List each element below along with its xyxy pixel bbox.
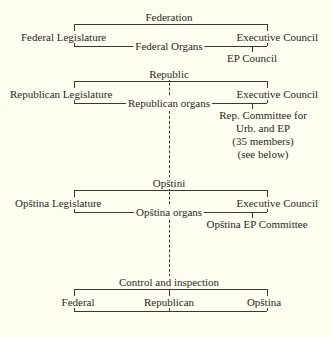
opstina-organs-label: Opština organs <box>134 206 204 218</box>
rep-committee-line-2: Urb. and EP <box>201 122 325 135</box>
org-hierarchy-diagram: Federation Federal Legislature Executive… <box>0 0 332 337</box>
spine-dash-republic-to-opstini <box>169 106 170 178</box>
federation-top-bracket-left-tick <box>74 24 75 31</box>
rep-committee-line-1: Rep. Committee for <box>201 109 325 122</box>
ep-council-label: EP Council <box>225 52 279 64</box>
opstini-top-bracket-left-tick <box>74 190 75 197</box>
control-top-bracket-center-tick <box>169 289 170 296</box>
control-federal-label: Federal <box>60 296 97 308</box>
republican-organs-label: Republican organs <box>126 97 212 109</box>
opstini-top-bracket-bar <box>74 190 267 191</box>
control-opstina-label: Opština <box>245 296 283 308</box>
republic-top-bracket-bar <box>74 81 267 82</box>
federal-organs-label: Federal Organs <box>133 40 204 52</box>
rep-committee-line-3: (35 members) <box>201 135 325 148</box>
opstina-ep-committee-label: Opština EP Committee <box>204 218 309 230</box>
control-top-bracket-bar <box>74 289 267 290</box>
republic-top-bracket-left-tick <box>74 81 75 88</box>
federation-heading: Federation <box>143 11 194 23</box>
republic-top-bracket-right-tick <box>267 81 268 88</box>
rep-committee-line-4: (see below) <box>201 148 325 161</box>
federation-top-bracket-right-tick <box>267 24 268 31</box>
control-bottom-bracket-bar <box>74 311 267 312</box>
control-top-bracket-left-tick <box>74 289 75 296</box>
federation-top-bracket-bar <box>74 24 267 25</box>
federation-executive-council-label: Executive Council <box>234 31 320 43</box>
spine-dash-opstini-to-control <box>169 215 170 277</box>
opstini-top-bracket-right-tick <box>267 190 268 197</box>
republic-executive-council-label: Executive Council <box>234 88 320 100</box>
republic-heading: Republic <box>147 68 191 80</box>
control-inspection-heading: Control and inspection <box>117 276 221 288</box>
republican-legislature-label: Republican Legislature <box>8 88 114 100</box>
opstini-executive-council-label: Executive Council <box>234 197 320 209</box>
opstina-legislature-label: Opština Legislature <box>13 197 103 209</box>
control-republican-label: Republican <box>142 296 196 308</box>
federal-legislature-label: Federal Legislature <box>19 31 108 43</box>
opstini-heading: Opštini <box>151 177 187 189</box>
control-top-bracket-right-tick <box>267 289 268 296</box>
